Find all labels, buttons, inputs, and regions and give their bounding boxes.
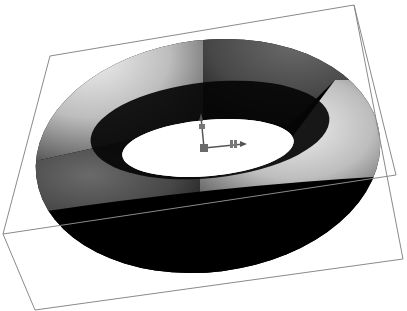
3d-viewport[interactable]: 3D viewport — torus in bounding box (0, 0, 407, 311)
scene-canvas[interactable] (0, 0, 407, 311)
gizmo-origin[interactable] (200, 144, 208, 152)
